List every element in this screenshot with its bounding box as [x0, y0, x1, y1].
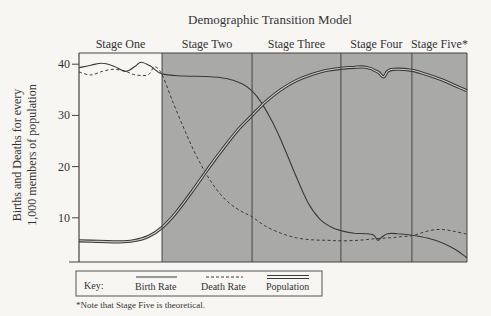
y-axis: 10203040: [58, 57, 79, 225]
y-tick-label-10: 10: [58, 211, 70, 225]
footnote: *Note that Stage Five is theoretical.: [76, 300, 205, 310]
chart-title: Demographic Transition Model: [188, 12, 352, 27]
y-tick-label-20: 20: [58, 160, 70, 174]
stage-backgrounds: [162, 53, 467, 262]
y-tick-label-30: 30: [58, 108, 70, 122]
y-tick-label-40: 40: [58, 57, 70, 71]
y-axis-label-line-2: 1,000 members of population: [25, 84, 39, 225]
demographic-transition-chart: Demographic Transition Model Stage OneSt…: [0, 0, 491, 316]
legend-label-birth-rate: Birth Rate: [135, 281, 177, 292]
stage-band-stage-two: [162, 53, 252, 262]
stage-band-stage-four: [341, 53, 412, 262]
stage-label-stage-four: Stage Four: [350, 37, 402, 51]
legend-key-label: Key:: [84, 280, 103, 291]
legend: Key: Birth Rate Death Rate Population: [76, 271, 322, 296]
legend-label-death-rate: Death Rate: [201, 281, 246, 292]
stage-band-stage-three: [252, 53, 341, 262]
stage-label-stage-one: Stage One: [96, 37, 146, 51]
legend-label-population: Population: [266, 281, 309, 292]
stage-labels: Stage OneStage TwoStage ThreeStage FourS…: [96, 37, 468, 51]
stage-label-stage-five: Stage Five*: [411, 37, 468, 51]
y-axis-label-line-1: Births and Deaths for every: [10, 89, 24, 222]
stage-band-stage-five: [412, 53, 467, 262]
stage-label-stage-two: Stage Two: [182, 37, 233, 51]
stage-label-stage-three: Stage Three: [268, 37, 325, 51]
